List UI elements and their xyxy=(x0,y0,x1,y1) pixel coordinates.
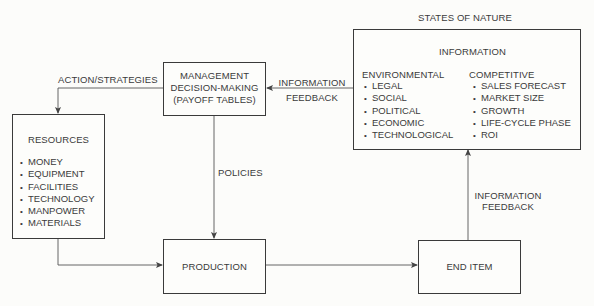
resource-item: TECHNOLOGY xyxy=(20,193,95,205)
action-strategies-label: ACTION/STRATEGIES xyxy=(58,74,158,85)
states-of-nature-label: STATES OF NATURE xyxy=(418,12,512,23)
action-strategies-arrow xyxy=(58,88,163,113)
information-title: INFORMATION xyxy=(439,46,506,57)
resource-item: FACILITIES xyxy=(20,181,95,193)
management-box-text: MANAGEMENT DECISION-MAKING (PAYOFF TABLE… xyxy=(164,70,265,106)
info-feedback-top-line: FEEDBACK xyxy=(272,90,352,105)
management-line: (PAYOFF TABLES) xyxy=(164,94,265,106)
resource-item: MONEY xyxy=(20,156,95,168)
competitive-heading: COMPETITIVE xyxy=(469,69,535,80)
info-feedback-right-line: FEEDBACK xyxy=(470,201,546,212)
environmental-item: POLITICAL xyxy=(364,105,453,117)
competitive-list: SALES FORECAST MARKET SIZE GROWTH LIFE-C… xyxy=(473,80,571,141)
management-line: MANAGEMENT xyxy=(164,70,265,82)
info-feedback-right-line: INFORMATION xyxy=(470,190,546,201)
management-line: DECISION-MAKING xyxy=(164,82,265,94)
environmental-item: SOCIAL xyxy=(364,92,453,104)
competitive-item: SALES FORECAST xyxy=(473,80,571,92)
info-feedback-top-line: INFORMATION xyxy=(272,75,352,90)
environmental-item: LEGAL xyxy=(364,80,453,92)
info-feedback-right-label: INFORMATION FEEDBACK xyxy=(470,190,546,212)
resources-list: MONEY EQUIPMENT FACILITIES TECHNOLOGY MA… xyxy=(20,156,95,230)
environmental-list: LEGAL SOCIAL POLITICAL ECONOMIC TECHNOLO… xyxy=(364,80,453,141)
end-item-box: END ITEM xyxy=(418,240,521,294)
environmental-item: ECONOMIC xyxy=(364,117,453,129)
competitive-item: MARKET SIZE xyxy=(473,92,571,104)
resources-title: RESOURCES xyxy=(13,134,104,145)
information-box: INFORMATION ENVIRONMENTAL LEGAL SOCIAL P… xyxy=(353,29,581,150)
resources-box: RESOURCES MONEY EQUIPMENT FACILITIES TEC… xyxy=(12,114,105,239)
competitive-item: GROWTH xyxy=(473,105,571,117)
policies-label: POLICIES xyxy=(218,167,263,178)
production-box: PRODUCTION xyxy=(163,239,266,294)
environmental-item: TECHNOLOGICAL xyxy=(364,129,453,141)
competitive-item: LIFE-CYCLE PHASE xyxy=(473,117,571,129)
resource-item: MANPOWER xyxy=(20,205,95,217)
production-label: PRODUCTION xyxy=(164,261,265,272)
resource-item: MATERIALS xyxy=(20,217,95,229)
competitive-item: ROI xyxy=(473,129,571,141)
decision-flow-diagram: STATES OF NATURE MANAGEMENT DECISION-MAK… xyxy=(0,0,594,306)
resources-to-production-arrow xyxy=(58,238,162,265)
management-decision-box: MANAGEMENT DECISION-MAKING (PAYOFF TABLE… xyxy=(163,62,266,116)
environmental-heading: ENVIRONMENTAL xyxy=(362,69,444,80)
info-feedback-top-label: INFORMATION FEEDBACK xyxy=(272,75,352,105)
resource-item: EQUIPMENT xyxy=(20,168,95,180)
end-item-label: END ITEM xyxy=(419,261,520,272)
